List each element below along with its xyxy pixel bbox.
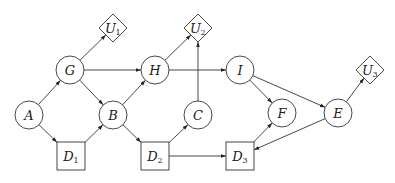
node-subscript: 2 [157, 156, 162, 165]
node-g: G [56, 56, 84, 84]
nodes-layer: AGBHCIFED1D2D3U1U2U3 [15, 14, 384, 170]
edge-e-to-u3 [346, 78, 364, 102]
edge-i-to-f [250, 80, 272, 103]
node-f: F [268, 99, 296, 127]
node-h: H [141, 56, 169, 84]
edge-d1-to-b [85, 125, 103, 143]
edge-b-to-d2 [123, 125, 141, 143]
edge-a-to-d1 [39, 125, 57, 143]
node-i: I [226, 56, 254, 84]
node-label: H [148, 63, 161, 78]
node-subscript: 3 [242, 156, 247, 165]
edge-g-to-b [80, 80, 104, 105]
node-e: E [324, 99, 352, 127]
edge-g-to-u1 [80, 35, 106, 60]
node-label: F [276, 106, 287, 121]
node-d2: D2 [141, 142, 169, 170]
edge-d2-to-c [169, 125, 188, 143]
node-d3: D3 [226, 142, 254, 170]
node-subscript: 2 [200, 28, 205, 37]
node-label: I [236, 63, 243, 78]
node-a: A [15, 101, 43, 129]
edges-layer [38, 35, 364, 156]
edge-b-to-h [123, 80, 146, 105]
influence-diagram: AGBHCIFED1D2D3U1U2U3 [0, 0, 395, 183]
node-label: E [332, 106, 343, 121]
node-subscript: 1 [73, 156, 78, 165]
edge-h-to-u2 [165, 35, 191, 60]
node-subscript: 1 [115, 28, 120, 37]
node-subscript: 3 [372, 70, 377, 79]
node-b: B [99, 101, 127, 129]
node-label: A [23, 108, 33, 123]
node-label: G [65, 63, 75, 78]
node-u3: U3 [356, 56, 384, 84]
node-label: C [193, 108, 203, 123]
node-c: C [184, 101, 212, 129]
edge-a-to-g [38, 80, 60, 104]
edge-d3-to-f [254, 123, 273, 142]
node-d1: D1 [57, 142, 85, 170]
node-label: B [107, 108, 118, 123]
